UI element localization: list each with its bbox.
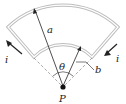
- label-current-left: i: [5, 54, 8, 65]
- label-current-right: i: [116, 53, 119, 64]
- label-p: P: [58, 93, 66, 104]
- b-leader-line: [76, 62, 94, 70]
- label-a: a: [47, 24, 53, 35]
- point-p-dot: [60, 84, 65, 89]
- label-theta: θ: [59, 61, 65, 72]
- diagram-canvas: a b θ P i i: [0, 0, 126, 104]
- angle-arc: [53, 72, 73, 76]
- current-loop: [8, 5, 118, 57]
- radius-b-arrow: [63, 46, 81, 86]
- label-b: b: [95, 64, 101, 75]
